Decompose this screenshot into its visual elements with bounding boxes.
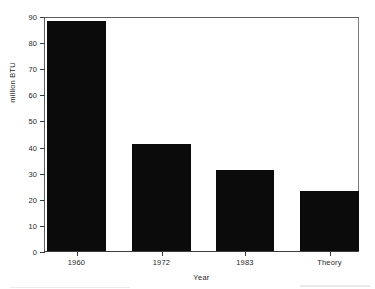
x-tick-mark — [330, 251, 331, 256]
plot-area: 0 10 20 30 40 50 60 70 — [44, 17, 359, 252]
bar-1972 — [132, 144, 191, 251]
scan-artifact — [300, 285, 370, 287]
x-tick-label: 1960 — [37, 258, 117, 267]
y-tick-label: 80 — [28, 38, 37, 49]
x-tick-label: Theory — [290, 258, 370, 267]
y-axis-title: million BTU — [8, 43, 17, 123]
scan-artifact — [10, 287, 130, 288]
y-tick-label: 10 — [28, 221, 37, 232]
x-tick-mark — [162, 251, 163, 256]
y-tick-label: 40 — [28, 143, 37, 154]
x-axis-title: Year — [44, 273, 359, 282]
x-tick-label: 1983 — [205, 258, 285, 267]
y-tick-label: 30 — [28, 169, 37, 180]
y-tick-label: 70 — [28, 64, 37, 75]
x-tick-mark — [245, 251, 246, 256]
bar-1983 — [216, 170, 274, 251]
bars-layer — [45, 18, 358, 251]
y-tick-label: 50 — [28, 116, 37, 127]
x-tick-label: 1972 — [122, 258, 202, 267]
bar-1960 — [47, 21, 106, 251]
y-tick-mark — [40, 252, 45, 253]
y-tick-label: 90 — [28, 12, 37, 23]
y-tick-label: 20 — [28, 195, 37, 206]
y-tick-label: 0 — [33, 247, 37, 258]
y-tick-label: 60 — [28, 90, 37, 101]
bar-theory — [300, 191, 359, 251]
bar-chart-figure: million BTU 0 10 20 30 40 50 60 — [0, 0, 375, 289]
x-tick-mark — [77, 251, 78, 256]
